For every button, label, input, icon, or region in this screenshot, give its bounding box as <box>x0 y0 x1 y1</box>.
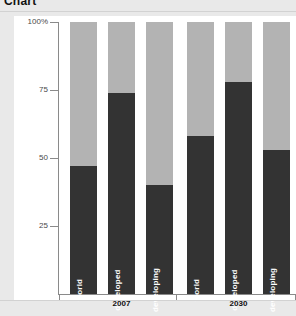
y-tick-label-75: 75 <box>14 85 48 94</box>
bar-segment-lower: developing <box>146 185 173 294</box>
bar-segment-lower: world <box>187 136 214 294</box>
bar-segment-lower: world <box>70 166 97 294</box>
bar-segment-upper <box>70 22 97 166</box>
y-tick-75 <box>50 90 58 91</box>
y-tick-label-wrap: 50 <box>14 153 48 162</box>
bar-2007-developing[interactable]: developing <box>146 22 173 294</box>
chart-card: 255075100% worlddevelopeddevelopingworld… <box>14 16 296 300</box>
bars-area: worlddevelopeddevelopingworlddevelopedde… <box>59 22 296 294</box>
y-tick-label-wrap: 100% <box>14 17 48 26</box>
x-axis-group-labels: 20072030 <box>59 295 296 313</box>
y-tick-50 <box>50 158 58 159</box>
bar-segment-lower: developing <box>263 150 290 294</box>
bar-segment-upper <box>108 22 135 93</box>
bar-segment-lower: developed <box>225 82 252 294</box>
bar-segment-upper <box>263 22 290 150</box>
y-tick-label-100: 100% <box>14 17 48 26</box>
bar-segment-upper <box>146 22 173 185</box>
bar-2030-world[interactable]: world <box>187 22 214 294</box>
bar-segment-upper <box>187 22 214 136</box>
bar-2007-world[interactable]: world <box>70 22 97 294</box>
y-tick-25 <box>50 226 58 227</box>
bar-2007-developed[interactable]: developed <box>108 22 135 294</box>
y-tick-100 <box>50 22 58 23</box>
y-tick-label-50: 50 <box>14 153 48 162</box>
bottom-divider <box>0 300 296 301</box>
y-tick-label-wrap: 25 <box>14 221 48 230</box>
bar-2030-developing[interactable]: developing <box>263 22 290 294</box>
y-tick-label-wrap: 75 <box>14 85 48 94</box>
title-divider <box>0 11 296 12</box>
bar-2030-developed[interactable]: developed <box>225 22 252 294</box>
page-title: Chart <box>4 0 36 8</box>
y-tick-label-25: 25 <box>14 221 48 230</box>
chart-page: Chart 255075100% worlddevelopeddevelopin… <box>0 0 296 316</box>
bar-segment-upper <box>225 22 252 82</box>
bar-segment-lower: developed <box>108 93 135 294</box>
